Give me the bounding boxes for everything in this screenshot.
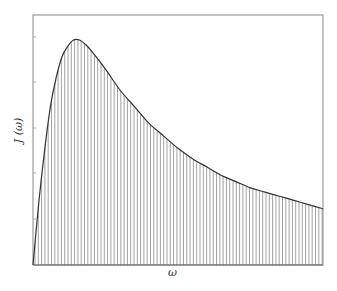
- x-axis-label: ω: [168, 266, 177, 279]
- spectral-density-chart: [0, 0, 337, 291]
- y-axis-label: J (ω): [12, 116, 25, 146]
- hatch-fill: [35, 15, 322, 265]
